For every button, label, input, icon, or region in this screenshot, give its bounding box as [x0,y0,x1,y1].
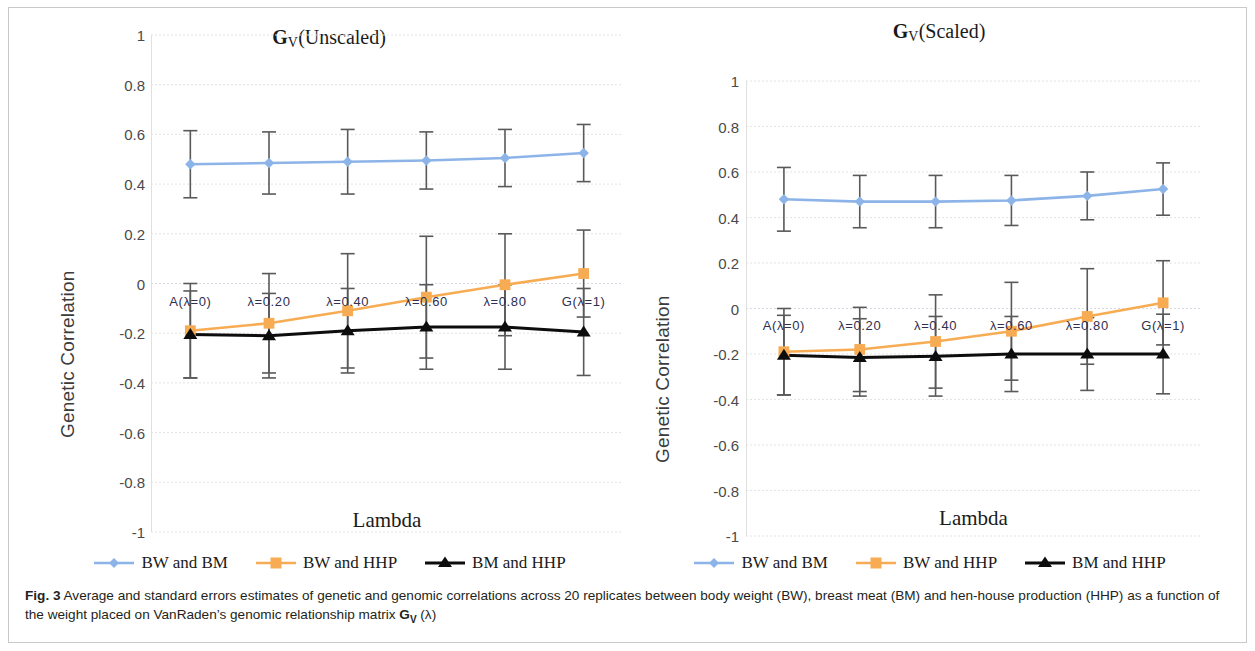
y-axis-tick-label: -1 [105,524,145,541]
y-axis-tick-label: 0.8 [105,76,145,93]
plot-area-scaled [746,81,1201,536]
x-axis-title-unscaled: Lambda [151,508,623,533]
legend-item[interactable]: BW and BM [92,553,228,573]
square-marker [254,555,298,571]
x-axis-category-label: λ=0.20 [248,294,291,309]
y-axis-tick-label: 1 [699,73,739,90]
y-axis-tick-label: 0.8 [699,118,739,135]
y-axis-tick-label: -0.4 [105,374,145,391]
legend-label: BW and BM [741,553,828,573]
square-marker [270,558,281,569]
diamond-marker [1082,191,1092,201]
y-axis-tick-label: 0 [105,275,145,292]
series-markers-square [779,297,1169,357]
series-line-diamond [784,189,1163,202]
figure-label: Fig. 3 [25,588,61,603]
diamond-marker [109,558,119,568]
legend-item[interactable]: BM and HHP [423,553,566,573]
diamond-marker [421,155,431,165]
legend-item[interactable]: BM and HHP [1023,553,1166,573]
diamond-marker [578,148,588,158]
y-axis-title-unscaled: Genetic Correlation [57,271,79,439]
y-axis-tick-label: -0.6 [699,437,739,454]
square-marker [264,318,275,329]
x-axis-category-label: λ=0.80 [484,294,527,309]
legend-label: BW and HHP [303,553,397,573]
x-axis-category-label: G(λ=1) [1141,317,1185,332]
legend-item[interactable]: BW and HHP [854,553,997,573]
x-axis-category-label: λ=0.60 [990,317,1033,332]
y-axis-tick-label: -0.2 [105,325,145,342]
series-markers-triangle [183,321,590,341]
diamond-marker [342,157,352,167]
charts-container: GV(Unscaled) Genetic Correlation Lambda … [9,8,1248,580]
legend-item[interactable]: BW and HHP [254,553,397,573]
figure-caption: Fig. 3 Average and standard errors estim… [25,586,1230,627]
series-line-triangle [190,327,583,336]
square-marker [870,558,881,569]
diamond-marker [709,558,719,568]
y-axis-tick-label: 0.6 [699,164,739,181]
diamond-marker [1158,184,1168,194]
square-marker [1158,297,1169,308]
y-axis-tick-label: -0.2 [699,346,739,363]
x-axis-category-label: λ=0.20 [838,317,881,332]
series-markers-diamond [185,148,589,170]
y-axis-tick-label: 0.4 [699,209,739,226]
diamond-marker [779,194,789,204]
diamond-marker [930,196,940,206]
y-axis-tick-label: -0.6 [105,424,145,441]
x-axis-category-label: A(λ=0) [169,294,211,309]
caption-line-2b: (λ) [417,607,437,622]
chart-canvas [151,35,623,532]
y-axis-tick-label: 0.4 [105,176,145,193]
y-axis-tick-label: -0.8 [699,482,739,499]
legend-unscaled: BW and BMBW and HHPBM and HHP [19,553,639,573]
x-axis-category-label: λ=0.40 [914,317,957,332]
y-axis-tick-label: 1 [105,27,145,44]
error-bars-square [777,261,1170,395]
x-axis-category-label: G(λ=1) [562,294,606,309]
legend-label: BM and HHP [472,553,566,573]
caption-gv-symbol: GV [399,607,416,622]
y-axis-tick-label: -0.8 [105,474,145,491]
chart-panel-unscaled: GV(Unscaled) Genetic Correlation Lambda … [19,8,639,580]
series-line-diamond [190,153,583,164]
x-axis-category-label: A(λ=0) [763,317,805,332]
square-marker [854,555,898,571]
diamond-marker [855,196,865,206]
diamond-marker [92,555,136,571]
legend-label: BW and HHP [903,553,997,573]
y-axis-tick-label: 0.2 [699,255,739,272]
legend-label: BW and BM [141,553,228,573]
y-axis-tick-label: 0.6 [105,126,145,143]
square-marker [930,336,941,347]
chart-title-scaled: GV(Scaled) [639,20,1239,45]
y-axis-tick-label: -1 [699,528,739,545]
diamond-marker [264,158,274,168]
chart-canvas [746,81,1201,536]
y-axis-title-scaled: Genetic Correlation [652,296,674,464]
series-line-triangle [784,354,1163,357]
legend-scaled: BW and BMBW and HHPBM and HHP [629,553,1229,573]
x-axis-title-scaled: Lambda [746,506,1201,531]
error-bars-triangle [183,285,590,378]
caption-line-1: Average and standard errors estimates of… [64,588,887,603]
x-axis-category-label: λ=0.80 [1066,317,1109,332]
diamond-marker [500,153,510,163]
square-marker [500,279,511,290]
y-axis-tick-label: 0 [699,300,739,317]
plot-area-unscaled [151,35,623,532]
y-axis-tick-label: -0.4 [699,391,739,408]
diamond-marker [692,555,736,571]
chart-panel-scaled: GV(Scaled) Genetic Correlation Lambda BW… [639,8,1239,580]
figure-frame: GV(Unscaled) Genetic Correlation Lambda … [8,7,1247,643]
y-axis-tick-label: 0.2 [105,225,145,242]
legend-item[interactable]: BW and BM [692,553,828,573]
diamond-marker [1006,195,1016,205]
legend-label: BM and HHP [1072,553,1166,573]
series-markers-diamond [779,184,1169,207]
diamond-marker [185,159,195,169]
triangle-marker [1023,555,1067,571]
error-bars-diamond [777,163,1170,231]
